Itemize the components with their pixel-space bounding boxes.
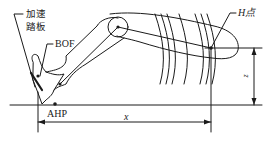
h-point-leader-line	[211, 13, 236, 48]
label-accelerator-line2: 踏板	[26, 22, 46, 32]
z-arrow-bottom	[252, 98, 257, 105]
foot-outline	[32, 54, 64, 104]
x-arrow-right	[204, 120, 211, 125]
label-x-dimension: x	[124, 112, 128, 122]
h-point-marker	[209, 46, 213, 50]
diagram-canvas: 加速 踏板 BOF AHP H点 x z	[0, 0, 275, 145]
ahp-point-marker	[53, 102, 57, 106]
x-arrow-left	[38, 120, 45, 125]
shin-centerline	[60, 27, 118, 84]
thigh-centerline	[118, 27, 211, 48]
label-accelerator-line1: 加速	[26, 9, 46, 19]
thigh-outline	[110, 13, 238, 59]
label-ahp: AHP	[47, 109, 67, 119]
ankle-point	[58, 82, 61, 85]
label-bof: BOF	[55, 39, 74, 49]
z-arrow-top	[252, 48, 257, 55]
bof-point-marker	[36, 74, 39, 77]
knee-point	[116, 25, 119, 28]
label-h-point: H点	[238, 8, 255, 18]
label-z-dimension: z	[242, 74, 250, 77]
